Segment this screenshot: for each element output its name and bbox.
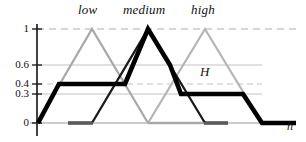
y-tick-label-0.3: 0.3 — [0, 87, 29, 99]
set-label-medium: medium — [123, 2, 165, 18]
aggregated-curve-H — [38, 29, 296, 123]
membership-set-low — [37, 29, 148, 123]
y-tick-label-1: 1 — [0, 22, 29, 34]
set-label-low: low — [78, 2, 97, 18]
y-tick-label-0.6: 0.6 — [0, 58, 29, 70]
chart-canvas — [0, 0, 306, 142]
y-tick-label-0: 0 — [0, 116, 29, 128]
x-axis-label: h — [287, 119, 293, 134]
curve-label-H: H — [200, 64, 209, 80]
fuzzy-membership-chart: low medium high 1 0.6 0.4 0.3 0 H h — [0, 0, 306, 142]
set-label-high: high — [191, 2, 215, 18]
